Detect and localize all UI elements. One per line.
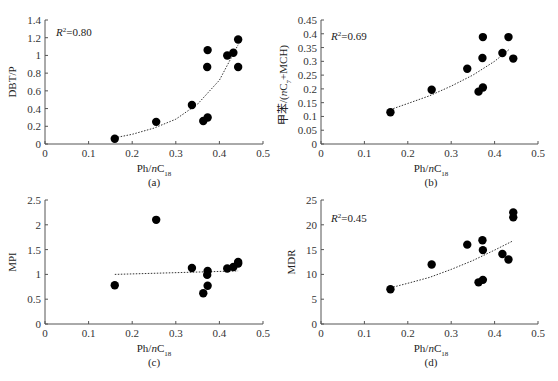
y-tick-label: 0.45 (298, 14, 318, 26)
y-tick-label: 1.4 (27, 14, 41, 26)
chart-b-r2-label: R2=0.69 (330, 30, 367, 42)
data-point (427, 86, 435, 94)
data-point (152, 118, 160, 126)
x-tick-label: 0.4 (488, 147, 502, 159)
y-tick-label: 10 (306, 268, 318, 280)
data-point (509, 208, 517, 216)
chart-b-ylabel: 甲苯/(nC7+MCH) (276, 45, 293, 125)
y-tick-label: 0.4 (303, 28, 317, 40)
chart-b-svg: 00.050.10.150.20.250.30.350.40.4500.10.2… (279, 0, 558, 190)
x-tick-label: 0.2 (125, 147, 139, 159)
y-tick-label: 0.4 (27, 103, 41, 115)
x-tick-label: 0.4 (213, 327, 227, 339)
data-point (152, 216, 160, 224)
x-tick-label: 0.3 (444, 147, 458, 159)
chart-b-caption: (b) (425, 176, 438, 189)
y-tick-label: 0 (312, 318, 318, 330)
x-tick-label: 0.2 (401, 147, 415, 159)
data-point (463, 65, 471, 73)
y-tick-label: 2.5 (27, 194, 41, 206)
y-tick-label: 0.6 (27, 85, 41, 97)
y-tick-label: 0.35 (298, 42, 318, 54)
y-tick-label: 0.3 (303, 55, 317, 67)
data-point (203, 113, 211, 121)
data-point (479, 33, 487, 41)
chart-b-points (386, 33, 517, 117)
x-tick-label: 0.1 (82, 147, 96, 159)
chart-c-points (111, 216, 243, 298)
data-point (229, 49, 237, 57)
chart-d-trendline (390, 241, 513, 288)
data-point (479, 276, 487, 284)
y-tick-label: 25 (306, 194, 318, 206)
data-point (386, 285, 394, 293)
data-point (498, 49, 506, 57)
chart-panel-c: 00.511.522.500.10.20.30.40.5 MPI Ph/nC18… (0, 190, 279, 380)
data-point (234, 63, 242, 71)
data-point (504, 255, 512, 263)
data-point (463, 240, 471, 248)
x-tick-label: 0 (318, 147, 324, 159)
trendline (390, 241, 513, 288)
x-tick-label: 0.5 (531, 327, 545, 339)
data-point (478, 54, 486, 62)
chart-d-r2-label: R2=0.45 (330, 212, 367, 224)
data-point (203, 46, 211, 54)
chart-c-svg: 00.511.522.500.10.20.30.40.5 MPI Ph/nC18… (0, 190, 279, 380)
y-tick-label: 0.2 (27, 120, 41, 132)
data-point (427, 260, 435, 268)
data-point (203, 63, 211, 71)
x-tick-label: 0.2 (401, 327, 415, 339)
x-tick-label: 0.5 (531, 147, 545, 159)
x-tick-label: 0.2 (125, 327, 139, 339)
chart-b-trendline (390, 49, 509, 110)
trendline (115, 45, 238, 138)
data-point (188, 264, 196, 272)
y-tick-label: 0.8 (27, 67, 41, 79)
chart-a-axes: 00.20.40.60.811.21.400.10.20.30.40.5 (27, 14, 270, 159)
y-tick-label: 1 (36, 49, 42, 61)
chart-a-ylabel: DBT/P (6, 66, 18, 97)
chart-d-points (386, 208, 517, 293)
x-tick-label: 0.5 (256, 327, 270, 339)
x-tick-label: 0.1 (358, 147, 372, 159)
data-point (234, 35, 242, 43)
trendline (115, 271, 238, 275)
x-tick-label: 0.4 (213, 147, 227, 159)
x-tick-label: 0.5 (256, 147, 270, 159)
trendline (390, 49, 509, 110)
chart-c-trendline (115, 271, 238, 275)
data-point (509, 54, 517, 62)
y-tick-label: 1.2 (27, 32, 41, 44)
chart-a-caption: (a) (148, 176, 161, 189)
data-point (479, 83, 487, 91)
y-tick-label: 20 (306, 219, 318, 231)
chart-d-caption: (d) (425, 356, 438, 369)
y-tick-label: 1 (36, 268, 42, 280)
x-tick-label: 0 (318, 327, 324, 339)
y-tick-label: 0 (36, 318, 42, 330)
chart-c-caption: (c) (148, 356, 161, 369)
chart-a-r2-label: R2=0.80 (55, 26, 92, 38)
chart-a-trendline (115, 45, 238, 138)
y-tick-label: 0 (312, 138, 318, 150)
data-point (234, 258, 242, 266)
y-tick-label: 0.15 (298, 97, 318, 109)
x-tick-label: 0.3 (169, 147, 183, 159)
data-point (479, 246, 487, 254)
x-tick-label: 0 (42, 327, 48, 339)
y-tick-label: 1.5 (27, 244, 41, 256)
data-point (203, 267, 211, 275)
chart-d-ylabel: MDR (285, 249, 297, 275)
data-point (504, 33, 512, 41)
y-tick-label: 5 (312, 293, 318, 305)
data-point (111, 134, 119, 142)
y-tick-label: 0.25 (298, 69, 318, 81)
chart-panel-a: 00.20.40.60.811.21.400.10.20.30.40.5 R2=… (0, 0, 279, 190)
data-point (199, 289, 207, 297)
chart-panel-b: 00.050.10.150.20.250.30.350.40.4500.10.2… (279, 0, 558, 190)
y-tick-label: 0.05 (298, 124, 318, 136)
y-tick-label: 15 (306, 244, 318, 256)
y-tick-label: 0.5 (27, 293, 41, 305)
x-tick-label: 0.3 (444, 327, 458, 339)
